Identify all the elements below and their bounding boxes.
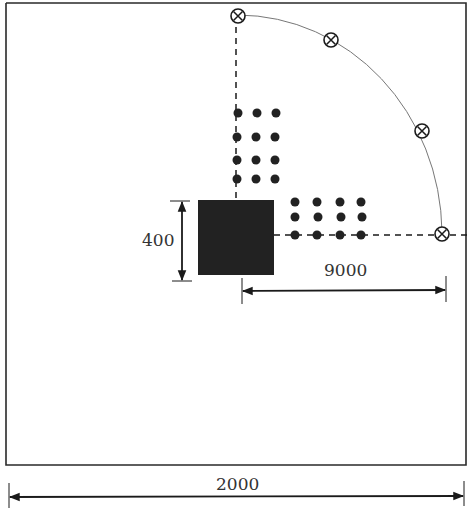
width-label: 2000	[216, 474, 259, 494]
radius-dimension	[242, 276, 446, 304]
height-label: 400	[142, 230, 174, 250]
circled-cross-icon	[415, 124, 429, 138]
central-block	[198, 200, 274, 275]
circled-cross-icon	[231, 9, 245, 23]
vertical-dot-grid	[233, 109, 281, 184]
radius-label: 9000	[324, 260, 367, 280]
circled-cross-icon	[324, 33, 338, 47]
circled-cross-icon	[435, 227, 449, 241]
horizontal-dot-grid	[291, 198, 367, 240]
diagram-canvas: 400 9000 2000	[0, 0, 472, 517]
